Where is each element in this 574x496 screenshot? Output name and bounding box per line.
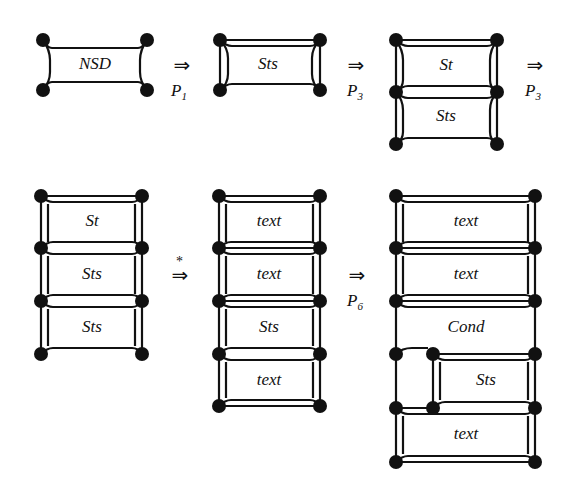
svg-text:text: text (257, 264, 283, 283)
svg-text:P3: P3 (346, 81, 363, 102)
node (36, 33, 50, 47)
node-label: NSD (78, 54, 112, 73)
svg-text:Sts: Sts (436, 106, 456, 125)
svg-text:text: text (454, 211, 480, 230)
svg-text:P1: P1 (170, 81, 187, 102)
svg-text:⇒: ⇒ (527, 53, 544, 77)
svg-text:Cond: Cond (448, 317, 485, 336)
svg-text:Sts: Sts (259, 317, 279, 336)
svg-text:P3: P3 (524, 81, 541, 102)
svg-text:text: text (257, 370, 283, 389)
graph-nsd: NSD (36, 33, 154, 97)
svg-text:⇒: ⇒ (349, 263, 366, 287)
svg-text:⇒: ⇒ (174, 53, 191, 77)
svg-text:*: * (176, 254, 183, 269)
node (36, 83, 50, 97)
svg-text:text: text (454, 264, 480, 283)
graph-with-cond: text text Cond Sts text (389, 189, 542, 469)
svg-text:Sts: Sts (82, 264, 102, 283)
svg-text:⇒: ⇒ (348, 53, 365, 77)
graph-st-sts: St Sts (389, 33, 504, 151)
arrow-p3: ⇒ P3 (346, 53, 364, 102)
arrow-p3-second: ⇒ P3 (524, 53, 543, 102)
graph-st-sts-sts: St Sts Sts (34, 189, 149, 361)
graph-sts: Sts (213, 33, 327, 97)
node-label: Sts (258, 54, 278, 73)
arrow-star: ⇒ * (172, 254, 189, 287)
svg-text:text: text (454, 424, 480, 443)
graph-text-text-sts-text: text text Sts text (212, 189, 327, 413)
node (140, 33, 154, 47)
svg-text:St: St (439, 55, 454, 74)
svg-text:P6: P6 (346, 291, 363, 312)
svg-text:text: text (257, 211, 283, 230)
node (140, 83, 154, 97)
derivation-diagram: NSD ⇒ P1 Sts ⇒ P3 (0, 0, 574, 496)
arrow-p1: ⇒ P1 (170, 53, 190, 102)
svg-text:Sts: Sts (476, 370, 496, 389)
svg-text:Sts: Sts (82, 317, 102, 336)
svg-text:St: St (85, 211, 100, 230)
arrow-p6: ⇒ P6 (346, 263, 365, 312)
